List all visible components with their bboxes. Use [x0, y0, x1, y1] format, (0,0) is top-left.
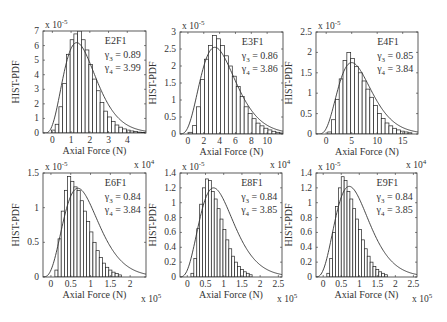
- x-tick-label: 8: [249, 136, 254, 146]
- panel-label: E4F1: [377, 36, 399, 47]
- gamma4-annotation: γ4 = 3.84: [376, 63, 413, 77]
- y-exponent-label: x 10-5: [318, 19, 341, 31]
- y-tick-label: 0: [307, 272, 312, 282]
- y-tick-label: 2: [307, 47, 312, 57]
- x-tick-label: 1: [357, 279, 362, 289]
- x-tick-label: 2: [201, 136, 206, 146]
- gamma3-annotation: γ3 = 0.84: [104, 191, 141, 205]
- gamma4-annotation: γ4 = 3.99: [104, 62, 141, 76]
- y-tick-label: 6: [34, 41, 39, 51]
- panel-label: E9F1: [377, 177, 399, 188]
- panel-label: E2F1: [105, 35, 127, 46]
- y-tick-label: 0.4: [164, 242, 176, 252]
- x-tick-label: 0: [321, 279, 326, 289]
- x-tick-label: 0.5: [335, 279, 347, 289]
- y-tick-label: 1: [307, 198, 312, 208]
- y-tick-label: 0: [307, 129, 312, 139]
- y-tick-label: 1.5: [27, 168, 39, 178]
- x-tick-label: 0.5: [65, 279, 77, 289]
- x-exponent-label: x 105: [277, 292, 298, 304]
- y-exponent-label: x 10-5: [45, 160, 68, 172]
- x-tick-label: 4: [217, 136, 222, 146]
- x-tick-label: 0.5: [200, 279, 212, 289]
- x-axis-label: Axial Force (N): [335, 289, 399, 301]
- x-tick-label: 1.5: [236, 279, 248, 289]
- gamma3-annotation: γ3 = 0.84: [240, 191, 277, 205]
- y-tick-label: 1.5: [300, 68, 312, 78]
- y-tick-label: 2.5: [300, 27, 312, 37]
- y-tick-label: 0.5: [300, 109, 312, 119]
- y-axis-label: HIST-PDF: [283, 203, 294, 246]
- y-exponent-label: x 10-5: [182, 19, 205, 31]
- y-axis-label: HIST-PDF: [10, 203, 21, 246]
- gamma3-annotation: γ3 = 0.85: [376, 50, 413, 64]
- y-tick-label: 5: [34, 55, 39, 65]
- y-axis-label: HIST-PDF: [147, 61, 158, 104]
- panel-label: E8F1: [241, 177, 263, 188]
- panel-e3f1: 024681000.511.522.53x 10-5Axial Force (N…: [147, 19, 284, 158]
- y-axis-label: HIST-PDF: [147, 203, 158, 246]
- x-axis-label: Axial Force (N): [63, 145, 127, 157]
- y-tick-label: 1: [307, 88, 312, 98]
- x-axis-label: Axial Force (N): [199, 289, 263, 301]
- x-tick-label: 1.5: [104, 279, 116, 289]
- x-exponent-label: x 104: [406, 158, 427, 170]
- x-tick-label: 0: [49, 279, 54, 289]
- y-tick-label: 0: [34, 128, 39, 138]
- y-tick-label: 3: [34, 84, 39, 94]
- gamma3-annotation: γ3 = 0.89: [104, 49, 141, 63]
- histogram-bars: [51, 31, 145, 133]
- y-tick-label: 0.5: [164, 112, 176, 122]
- panel-e9f1: 00.511.522.500.20.40.60.811.21.4x 10-5Ax…: [283, 160, 433, 304]
- panel-label: E3F1: [242, 36, 264, 47]
- y-tick-label: 2.5: [164, 44, 176, 54]
- y-tick-label: 1.5: [164, 78, 176, 88]
- x-tick-label: 5: [349, 136, 354, 146]
- x-tick-label: 2: [258, 279, 263, 289]
- y-tick-label: 1: [171, 95, 176, 105]
- y-exponent-label: x 10-5: [318, 160, 341, 172]
- x-exponent-label: x 105: [412, 292, 433, 304]
- x-tick-label: 15: [398, 136, 408, 146]
- gamma4-annotation: γ4 = 3.84: [104, 204, 141, 218]
- y-tick-label: 0.2: [300, 257, 312, 267]
- x-exponent-label: x 105: [141, 292, 162, 304]
- y-tick-label: 1: [34, 113, 39, 123]
- figure: 0123401234567x 10-5Axial Force (N)HIST-P…: [0, 0, 447, 322]
- y-tick-label: 1.2: [164, 183, 176, 193]
- x-tick-label: 0: [185, 279, 190, 289]
- x-tick-label: 0: [324, 136, 329, 146]
- x-axis-label: Axial Force (N): [63, 289, 127, 301]
- panel-e2f1: 0123401234567x 10-5Axial Force (N)HIST-P…: [10, 18, 146, 157]
- y-tick-label: 0.8: [164, 213, 176, 223]
- x-tick-label: 2.5: [272, 279, 284, 289]
- panel-e8f1: 00.511.522.500.20.40.60.811.21.4x 10-5Ax…: [147, 160, 298, 304]
- y-tick-label: 1: [171, 198, 176, 208]
- x-tick-label: 2: [393, 279, 398, 289]
- x-tick-label: 6: [233, 136, 238, 146]
- x-axis-label: Axial Force (N): [335, 146, 399, 158]
- y-exponent-label: x 10-5: [45, 18, 68, 30]
- y-tick-label: 0: [171, 272, 176, 282]
- x-exponent-label: x 104: [134, 158, 155, 170]
- x-tick-label: 1: [221, 279, 226, 289]
- y-tick-label: 1.4: [300, 168, 312, 178]
- x-tick-label: 0: [186, 136, 191, 146]
- y-tick-label: 4: [34, 70, 39, 80]
- y-tick-label: 3: [171, 27, 176, 37]
- y-tick-label: 0: [34, 272, 39, 282]
- y-tick-label: 0.6: [300, 227, 312, 237]
- y-tick-label: 1.4: [164, 168, 176, 178]
- y-tick-label: 0.8: [300, 213, 312, 223]
- gamma3-annotation: γ3 = 0.84: [376, 191, 413, 205]
- y-tick-label: 0.6: [164, 227, 176, 237]
- gamma3-annotation: γ3 = 0.86: [241, 50, 278, 64]
- y-tick-label: 1: [34, 203, 39, 213]
- x-tick-label: 10: [262, 136, 272, 146]
- y-tick-label: 0: [171, 129, 176, 139]
- y-tick-label: 0.5: [27, 237, 39, 247]
- y-tick-label: 2: [34, 99, 39, 109]
- gamma4-annotation: γ4 = 3.85: [376, 204, 413, 218]
- y-tick-label: 0.2: [164, 257, 176, 267]
- x-tick-label: 2: [87, 135, 92, 145]
